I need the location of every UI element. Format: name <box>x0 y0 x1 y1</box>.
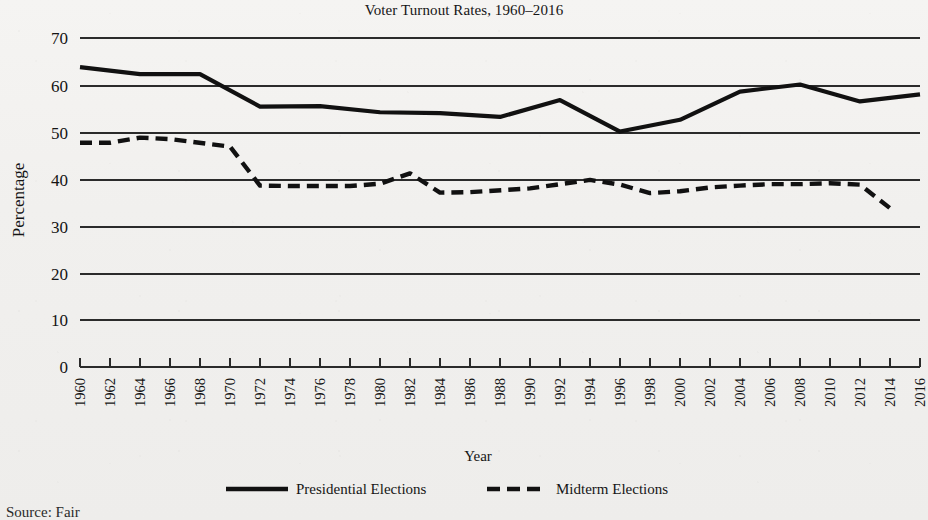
y-tick-label: 20 <box>51 265 68 284</box>
x-tick-label: 2008 <box>792 378 808 407</box>
y-tick-label: 10 <box>51 311 68 330</box>
x-tick-label: 1984 <box>432 377 448 407</box>
x-axis-tick-labels: 1960196219641966196819701972197419761978… <box>72 377 928 407</box>
x-tick-label: 2010 <box>822 378 838 407</box>
x-tick-label: 1980 <box>372 378 388 407</box>
y-tick-label: 50 <box>51 124 68 143</box>
y-tick-label: 40 <box>51 171 68 190</box>
x-tick-label: 1992 <box>552 378 568 407</box>
x-tick-label: 2014 <box>882 377 898 407</box>
x-tick-label: 1996 <box>612 378 628 407</box>
x-tick-label: 1998 <box>642 378 658 407</box>
series-layer <box>80 67 920 208</box>
chart-legend: Presidential Elections Midterm Elections <box>226 481 668 497</box>
line-chart: 70 60 50 40 30 20 10 0 Percentage 196019… <box>0 0 928 500</box>
x-tick-label: 1962 <box>102 378 118 407</box>
x-tick-label: 1994 <box>582 377 598 407</box>
x-tick-label: 1968 <box>192 378 208 407</box>
y-axis-ticks: 70 60 50 40 30 20 10 0 <box>51 29 68 377</box>
x-tick-label: 1988 <box>492 378 508 407</box>
x-tick-label: 1986 <box>462 378 478 407</box>
legend-label-midterm: Midterm Elections <box>556 481 668 497</box>
x-tick-label: 1960 <box>72 378 88 407</box>
x-tick-label: 2000 <box>672 378 688 407</box>
y-tick-label: 70 <box>51 29 68 48</box>
gridlines <box>80 38 920 320</box>
x-axis-title: Year <box>464 448 492 464</box>
x-tick-label: 2016 <box>912 378 928 407</box>
x-tick-label: 1974 <box>282 377 298 407</box>
x-tick-label: 1966 <box>162 378 178 407</box>
series-line-midterm-elections <box>80 138 890 209</box>
x-tick-label: 2004 <box>732 377 748 407</box>
y-tick-label: 60 <box>51 77 68 96</box>
legend-label-presidential: Presidential Elections <box>296 481 427 497</box>
x-tick-label: 1982 <box>402 378 418 407</box>
figure-page: Voter Turnout Rates, 1960–2016 70 60 50 … <box>0 0 928 520</box>
x-tick-label: 1972 <box>252 378 268 407</box>
x-tick-label: 1970 <box>222 378 238 407</box>
x-axis <box>80 358 920 367</box>
x-tick-label: 2012 <box>852 378 868 407</box>
x-tick-label: 1990 <box>522 378 538 407</box>
source-note: Source: Fair <box>6 504 80 520</box>
x-tick-label: 2002 <box>702 378 718 407</box>
y-tick-label: 30 <box>51 218 68 237</box>
x-tick-label: 1964 <box>132 377 148 407</box>
x-tick-label: 1978 <box>342 378 358 407</box>
y-axis-title: Percentage <box>9 163 28 238</box>
series-line-presidential-elections <box>80 67 920 131</box>
x-tick-label: 2006 <box>762 378 778 407</box>
x-tick-label: 1976 <box>312 378 328 407</box>
y-tick-label: 0 <box>60 358 69 377</box>
